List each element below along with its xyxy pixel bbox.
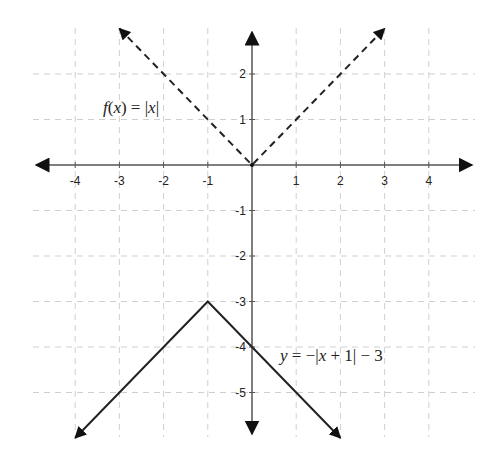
coordinate-plane: -4-3-2-1123421-1-2-3-4-5 f(x) = |x| y = … xyxy=(0,0,493,462)
y-tick-label: -4 xyxy=(235,340,246,354)
origin-point xyxy=(250,163,254,167)
y-tick-label: 1 xyxy=(239,113,246,127)
y-tick-label: -3 xyxy=(235,295,246,309)
y-tick-label: 2 xyxy=(239,67,246,81)
x-tick-label: 1 xyxy=(293,174,300,188)
y-tick-label: -1 xyxy=(235,204,246,218)
grid-lines xyxy=(33,28,475,437)
x-tick-label: 4 xyxy=(425,174,432,188)
y-tick-label: -2 xyxy=(235,249,246,263)
x-tick-label: -1 xyxy=(202,174,213,188)
axes xyxy=(36,32,472,434)
x-tick-label: -4 xyxy=(70,174,81,188)
g-label: y = −|x + 1| − 3 xyxy=(278,346,383,365)
x-tick-label: -2 xyxy=(158,174,169,188)
x-tick-label: 2 xyxy=(337,174,344,188)
x-tick-label: 3 xyxy=(381,174,388,188)
f-label: f(x) = |x| xyxy=(103,98,159,117)
y-tick-label: -5 xyxy=(235,386,246,400)
x-tick-label: -3 xyxy=(114,174,125,188)
series xyxy=(75,29,384,439)
